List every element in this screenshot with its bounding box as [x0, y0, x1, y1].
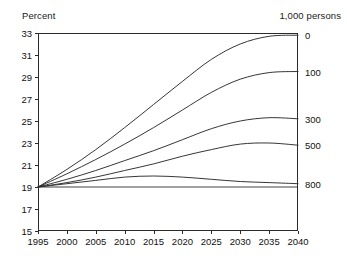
x-tick-label-2000: 2000: [56, 236, 77, 247]
x-tick-label-2030: 2030: [230, 236, 251, 247]
x-tick-mark: [38, 231, 39, 234]
series-end-label-500: 500: [305, 140, 321, 151]
x-tick-label-2020: 2020: [172, 236, 193, 247]
series-end-label-300: 300: [305, 113, 321, 124]
x-tick-label-2010: 2010: [114, 236, 135, 247]
y-tick-mark: [35, 143, 38, 144]
y-tick-label-23: 23: [8, 138, 32, 149]
x-tick-label-2025: 2025: [201, 236, 222, 247]
y-tick-label-21: 21: [8, 160, 32, 171]
x-tick-label-2035: 2035: [259, 236, 280, 247]
x-tick-mark: [96, 231, 97, 234]
x-tick-label-1995: 1995: [27, 236, 48, 247]
chart-container: Percent 1,000 persons 010030050080015171…: [0, 0, 347, 260]
y-tick-mark: [35, 165, 38, 166]
x-tick-mark: [182, 231, 183, 234]
y-tick-label-19: 19: [8, 182, 32, 193]
y-tick-label-25: 25: [8, 116, 32, 127]
x-tick-label-2040: 2040: [287, 236, 308, 247]
y-tick-mark: [35, 55, 38, 56]
y-tick-label-27: 27: [8, 94, 32, 105]
y-tick-mark: [35, 99, 38, 100]
x-tick-label-2005: 2005: [85, 236, 106, 247]
x-tick-mark: [154, 231, 155, 234]
x-tick-mark: [298, 231, 299, 234]
right-axis-unit-label: 1,000 persons: [279, 10, 341, 21]
y-axis-unit-label: Percent: [22, 10, 55, 21]
series-line-100: [38, 72, 298, 188]
series-end-label-0: 0: [305, 30, 310, 41]
series-line-800: [38, 176, 298, 187]
x-tick-mark: [269, 231, 270, 234]
x-tick-mark: [240, 231, 241, 234]
y-tick-label-29: 29: [8, 72, 32, 83]
x-tick-mark: [67, 231, 68, 234]
y-tick-mark: [35, 121, 38, 122]
series-end-label-100: 100: [305, 66, 321, 77]
y-tick-mark: [35, 187, 38, 188]
series-line-0: [38, 35, 298, 187]
y-tick-label-31: 31: [8, 50, 32, 61]
y-tick-label-33: 33: [8, 28, 32, 39]
x-tick-mark: [125, 231, 126, 234]
y-tick-mark: [35, 209, 38, 210]
x-tick-mark: [211, 231, 212, 234]
series-end-label-800: 800: [305, 178, 321, 189]
y-tick-mark: [35, 33, 38, 34]
y-tick-label-17: 17: [8, 204, 32, 215]
x-tick-label-2015: 2015: [143, 236, 164, 247]
series-line-500: [38, 143, 298, 187]
y-tick-mark: [35, 77, 38, 78]
y-tick-label-15: 15: [8, 226, 32, 237]
series-lines-group: [38, 33, 298, 231]
plot-area: [38, 33, 298, 231]
